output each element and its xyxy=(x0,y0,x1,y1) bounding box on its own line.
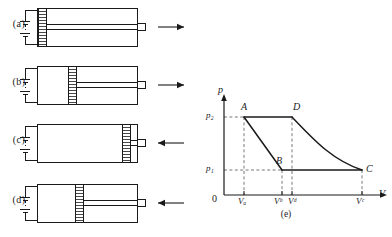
panel-b: (b) xyxy=(0,60,196,110)
panel-a-drawing xyxy=(0,2,196,52)
panel-d-drawing xyxy=(0,178,196,228)
figure-root: (a) xyxy=(0,0,392,237)
battery-symbol xyxy=(20,186,37,220)
motion-arrow-left xyxy=(158,200,184,206)
rod-end-cap xyxy=(137,139,145,146)
panel-c: (c) xyxy=(0,118,196,168)
point-label-D: D xyxy=(293,101,300,112)
motion-arrow-left xyxy=(158,140,184,146)
segment-D-C xyxy=(292,117,362,170)
panel-b-drawing xyxy=(0,60,196,110)
battery-symbol xyxy=(20,126,37,160)
motion-arrow-right xyxy=(158,24,184,30)
x-axis-label: V xyxy=(379,188,385,199)
piston-rod xyxy=(76,82,144,87)
point-label-B: B xyxy=(276,155,282,166)
y-tick-label-p2: p₂ xyxy=(206,110,214,120)
y-axis-arrowhead xyxy=(221,94,227,101)
rod-end-cap xyxy=(137,23,145,30)
motion-arrow-right xyxy=(158,82,184,88)
battery-symbol xyxy=(20,68,37,102)
rod-end-cap xyxy=(137,81,145,88)
x-tick-label-Vc: Vᶜ xyxy=(356,196,364,206)
axes xyxy=(224,96,384,195)
piston-rod xyxy=(47,24,145,29)
chart-caption: (e) xyxy=(188,209,384,219)
origin-label: 0 xyxy=(212,193,217,204)
y-axis-label: p xyxy=(218,84,223,95)
x-tick-marks xyxy=(244,191,362,195)
panel-c-drawing xyxy=(0,118,196,168)
panel-d: (d) xyxy=(0,178,196,228)
piston-rod xyxy=(83,200,144,205)
x-tick-label-Vb: Vᵇ xyxy=(274,196,282,206)
x-tick-label-Vd: Vᵈ xyxy=(288,196,296,206)
piston-panels-group: (a) xyxy=(0,0,196,237)
point-label-A: A xyxy=(241,101,247,112)
y-tick-label-p1: p₁ xyxy=(206,163,214,173)
dashed-guides xyxy=(224,117,362,195)
pv-diagram: p V 0 p₂ p₁ Vₐ Vᵇ Vᵈ Vᶜ A D B C (e) xyxy=(196,92,392,237)
point-label-C: C xyxy=(366,163,373,174)
rod-end-cap xyxy=(137,199,145,206)
x-tick-label-Va: Vₐ xyxy=(238,196,246,206)
battery-symbol xyxy=(20,10,37,44)
panel-a: (a) xyxy=(0,2,196,52)
